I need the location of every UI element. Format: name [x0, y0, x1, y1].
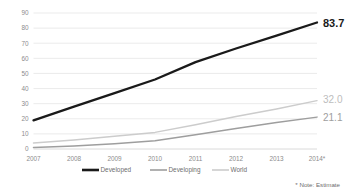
x-axis-tick-label: 2010	[148, 155, 163, 162]
y-axis-tick-label: 30	[21, 100, 29, 107]
y-axis-tick-label: 90	[21, 9, 29, 16]
chart-legend: DevelopedDevelopingWorld	[82, 166, 248, 174]
y-axis-tick-labels: 0102030405060708090	[21, 9, 29, 152]
chart-footnote: * Note: Estimate	[295, 181, 340, 188]
data-series	[34, 23, 318, 148]
y-axis-tick-label: 10	[21, 130, 29, 137]
data-label-developing: 21.1	[323, 112, 343, 123]
y-axis-tick-label: 60	[21, 55, 29, 62]
line-chart: 0102030405060708090 20072008200920102011…	[0, 0, 347, 193]
y-axis-tick-label: 20	[21, 115, 29, 122]
x-axis-tick-label: 2008	[67, 155, 82, 162]
x-axis-tick-label: 2011	[189, 155, 203, 162]
x-axis-tick-labels: 20072008200920102011201220132014*	[26, 155, 325, 162]
legend-label-world[interactable]: World	[231, 166, 248, 173]
x-axis-tick-label: 2009	[107, 155, 122, 162]
y-axis-tick-label: 50	[21, 70, 29, 77]
x-axis-tick-label: 2013	[269, 155, 284, 162]
x-axis-tick-label: 2012	[229, 155, 244, 162]
y-axis-tick-label: 40	[21, 85, 29, 92]
x-axis-tick-label: 2014*	[309, 155, 326, 162]
data-label-developed: 83.7	[323, 17, 344, 29]
x-axis-tick-label: 2007	[26, 155, 41, 162]
y-axis-tick-label: 70	[21, 40, 29, 47]
series-line-developed	[34, 23, 318, 121]
series-line-developing	[34, 117, 318, 147]
y-axis-tick-label: 80	[21, 24, 29, 31]
chart-canvas: 0102030405060708090 20072008200920102011…	[0, 0, 347, 193]
data-label-world: 32.0	[323, 94, 343, 105]
legend-label-developed[interactable]: Developed	[101, 166, 132, 174]
legend-label-developing[interactable]: Developing	[169, 166, 201, 174]
y-axis-tick-label: 0	[25, 145, 29, 152]
footnote-text: * Note: Estimate	[295, 181, 340, 188]
data-labels: 83.732.021.1	[323, 17, 344, 123]
